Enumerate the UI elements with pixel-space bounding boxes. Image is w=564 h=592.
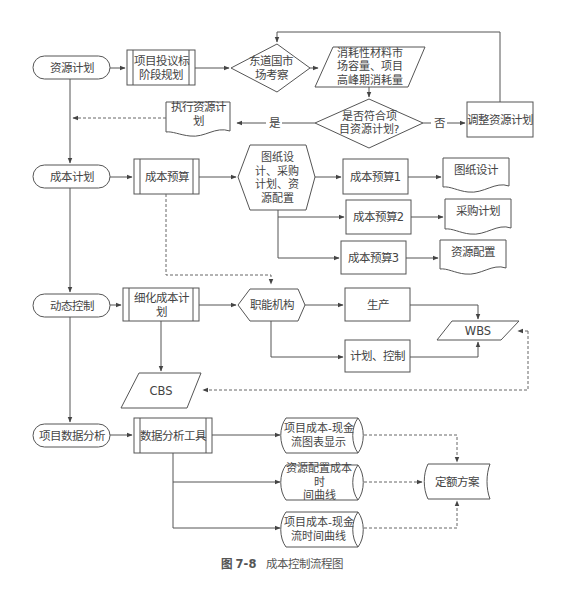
bid-planning-label: 项目投议标 阶段规划 (133, 50, 189, 85)
detail-cost-plan-label: 细化成本计划 (129, 288, 193, 321)
cbs-label: CBS (130, 373, 192, 408)
drawing-design-label: 图纸设计 (443, 158, 509, 182)
consumption-label: 消耗性材料市 场容量、项目 高峰期消耗量 (322, 47, 418, 87)
analysis-tools-label: 数据分析工具 (140, 418, 206, 453)
cost-budget-label: 成本预算 (140, 159, 193, 194)
stage-resource-plan: 资源计划 (33, 56, 110, 79)
yes-label: 是 (266, 115, 282, 131)
budget-2-label: 成本预算2 (346, 200, 411, 234)
resource-allocation-label: 资源配置 (440, 240, 506, 264)
budget-3-label: 成本预算3 (341, 241, 406, 274)
production-label: 生产 (345, 288, 410, 321)
no-label: 否 (431, 115, 447, 131)
budget-1-label: 成本预算1 (343, 159, 408, 194)
market-survey-label: 东道国市 场考察 (238, 50, 304, 86)
stage-cost-plan: 成本计划 (33, 165, 110, 188)
decision-label: 是否符合项 目资源计划? (325, 105, 413, 141)
resource-cost-curve-label: 资源配置成本时 间曲线 (281, 465, 357, 500)
plan-control-label: 计划、控制 (345, 340, 410, 372)
functions-label: 职能机构 (242, 289, 302, 321)
flowchart: 资源计划 成本计划 动态控制 项目数据分析 项目投议标 阶段规划 东道国市 场考… (0, 0, 564, 592)
procurement-plan-label: 采购计划 (445, 199, 511, 223)
adjust-plan-label: 调整资源计划 (467, 102, 533, 137)
preparation-label: 图纸设 计、采购 计划、资 源配置 (244, 147, 310, 209)
execute-plan-label: 执行资源计划 (166, 102, 230, 126)
cashflow-chart-label: 项目成本-现金 流图表显示 (281, 418, 357, 453)
wbs-label: WBS (448, 321, 508, 340)
stage-dynamic-control: 动态控制 (33, 294, 110, 317)
figure-number: 图 7-8 (221, 557, 257, 571)
quota-plan-label: 定额方案 (426, 464, 488, 499)
cashflow-curve-label: 项目成本-现金 流时间曲线 (281, 512, 357, 547)
stage-data-analysis: 项目数据分析 (33, 424, 110, 447)
figure-title: 成本控制流程图 (266, 557, 343, 571)
figure-caption: 图 7-8成本控制流程图 (0, 555, 564, 571)
